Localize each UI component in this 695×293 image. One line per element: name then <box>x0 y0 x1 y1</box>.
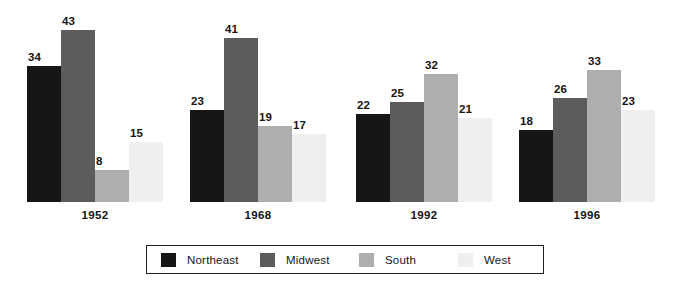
legend-item-south[interactable]: South <box>345 253 444 267</box>
bar-rect[interactable] <box>292 134 326 202</box>
bar-rect[interactable] <box>390 102 424 202</box>
bar-rect[interactable] <box>224 38 258 202</box>
bar-rect[interactable] <box>553 98 587 202</box>
bar-midwest-1952[interactable]: 43 <box>61 22 95 202</box>
bar-rect[interactable] <box>356 114 390 202</box>
bar-west-1952[interactable]: 15 <box>129 22 163 202</box>
legend-item-west[interactable]: West <box>444 253 543 267</box>
bars-row: 22253221 <box>356 22 492 202</box>
legend-label: West <box>484 254 511 266</box>
bar-value-label: 17 <box>293 119 306 131</box>
bar-midwest-1996[interactable]: 26 <box>553 22 587 202</box>
bar-value-label: 18 <box>520 115 533 127</box>
bar-rect[interactable] <box>424 74 458 202</box>
bar-rect[interactable] <box>61 30 95 202</box>
bars-row: 3443815 <box>27 22 163 202</box>
bar-south-1996[interactable]: 33 <box>587 22 621 202</box>
bar-rect[interactable] <box>95 170 129 202</box>
legend-swatch-west <box>458 253 473 267</box>
plot-area: 3443815195223411917196822253221199218263… <box>0 0 695 225</box>
legend-label: Northeast <box>187 254 239 266</box>
x-axis-label-1992: 1992 <box>356 209 492 221</box>
bar-value-label: 43 <box>62 15 75 27</box>
bar-midwest-1968[interactable]: 41 <box>224 22 258 202</box>
bar-rect[interactable] <box>258 126 292 202</box>
bar-northeast-1952[interactable]: 34 <box>27 22 61 202</box>
bar-west-1968[interactable]: 17 <box>292 22 326 202</box>
bar-value-label: 26 <box>554 83 567 95</box>
bar-midwest-1992[interactable]: 25 <box>390 22 424 202</box>
legend-item-northeast[interactable]: Northeast <box>147 253 246 267</box>
bar-northeast-1996[interactable]: 18 <box>519 22 553 202</box>
bar-group-1996: 182633231996 <box>519 0 655 202</box>
bar-value-label: 19 <box>259 111 272 123</box>
legend-label: South <box>385 254 416 266</box>
bar-value-label: 23 <box>622 95 635 107</box>
bar-rect[interactable] <box>27 66 61 202</box>
bar-value-label: 25 <box>391 87 404 99</box>
bar-value-label: 41 <box>225 23 238 35</box>
legend-item-midwest[interactable]: Midwest <box>246 253 345 267</box>
bar-south-1992[interactable]: 32 <box>424 22 458 202</box>
bar-northeast-1968[interactable]: 23 <box>190 22 224 202</box>
bar-rect[interactable] <box>190 110 224 202</box>
legend-label: Midwest <box>286 254 330 266</box>
bar-south-1968[interactable]: 19 <box>258 22 292 202</box>
bar-value-label: 23 <box>191 95 204 107</box>
x-axis-label-1952: 1952 <box>27 209 163 221</box>
x-axis-label-1996: 1996 <box>519 209 655 221</box>
bar-value-label: 22 <box>357 99 370 111</box>
bar-group-1952: 34438151952 <box>27 0 163 202</box>
bar-rect[interactable] <box>587 70 621 202</box>
bar-value-label: 8 <box>96 155 103 167</box>
bar-value-label: 34 <box>28 51 41 63</box>
legend-swatch-northeast <box>161 253 176 267</box>
bar-value-label: 32 <box>425 59 438 71</box>
x-axis-label-1968: 1968 <box>190 209 326 221</box>
bar-south-1952[interactable]: 8 <box>95 22 129 202</box>
bars-row: 18263323 <box>519 22 655 202</box>
bar-rect[interactable] <box>519 130 553 202</box>
bar-value-label: 33 <box>588 55 601 67</box>
bar-west-1992[interactable]: 21 <box>458 22 492 202</box>
chart-legend: NortheastMidwestSouthWest <box>146 245 544 274</box>
bar-northeast-1992[interactable]: 22 <box>356 22 390 202</box>
bar-rect[interactable] <box>458 118 492 202</box>
bar-group-1992: 222532211992 <box>356 0 492 202</box>
bar-rect[interactable] <box>129 142 163 202</box>
bar-rect[interactable] <box>621 110 655 202</box>
bar-value-label: 15 <box>130 127 143 139</box>
bar-chart: 3443815195223411917196822253221199218263… <box>0 0 695 293</box>
bar-west-1996[interactable]: 23 <box>621 22 655 202</box>
bars-row: 23411917 <box>190 22 326 202</box>
bar-group-1968: 234119171968 <box>190 0 326 202</box>
legend-swatch-midwest <box>260 253 275 267</box>
legend-swatch-south <box>359 253 374 267</box>
bar-value-label: 21 <box>459 103 472 115</box>
